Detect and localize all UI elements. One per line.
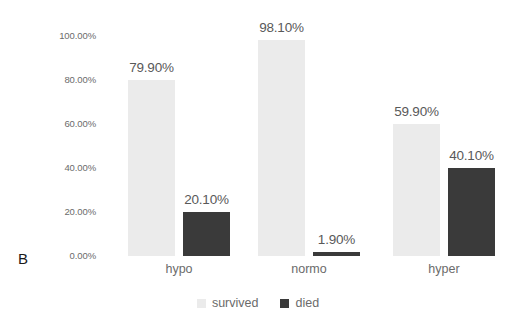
y-axis-tick-label: 60.00% xyxy=(64,118,96,129)
bar-hyper-died xyxy=(448,168,495,256)
legend-swatch-died-icon xyxy=(280,299,289,308)
data-label-hypo-survived: 79.90% xyxy=(114,60,189,75)
data-label-normo-survived: 98.10% xyxy=(244,20,319,35)
y-axis-tick-label: 0.00% xyxy=(70,250,96,261)
x-axis-category-label-normo: normo xyxy=(258,262,360,276)
bar-group-normo: 98.10%1.90%normo xyxy=(258,0,360,320)
legend-item-died[interactable]: died xyxy=(280,296,319,310)
bar-hypo-survived xyxy=(128,80,175,256)
legend-label: survived xyxy=(212,296,259,310)
y-axis-tick-label: 80.00% xyxy=(64,74,96,85)
legend-label: died xyxy=(295,296,319,310)
legend-swatch-survived-icon xyxy=(197,299,206,308)
data-label-hyper-died: 40.10% xyxy=(434,148,509,163)
bar-normo-died xyxy=(313,252,360,256)
plot-area: 79.90%20.10%hypo98.10%1.90%normo59.90%40… xyxy=(100,0,516,320)
x-axis-category-label-hypo: hypo xyxy=(128,262,230,276)
bar-chart-figure: B 0.00%20.00%40.00%60.00%80.00%100.00% 7… xyxy=(0,0,516,320)
bar-normo-survived xyxy=(258,40,305,256)
data-label-hyper-survived: 59.90% xyxy=(379,104,454,119)
bar-group-hypo: 79.90%20.10%hypo xyxy=(128,0,230,320)
y-axis-tick-label: 100.00% xyxy=(59,30,96,41)
y-axis-tick-label: 20.00% xyxy=(64,206,96,217)
bar-hypo-died xyxy=(183,212,230,256)
y-axis: 0.00%20.00%40.00%60.00%80.00%100.00% xyxy=(0,0,96,320)
x-axis-category-label-hyper: hyper xyxy=(393,262,495,276)
bar-group-hyper: 59.90%40.10%hyper xyxy=(393,0,495,320)
data-label-normo-died: 1.90% xyxy=(299,232,374,247)
y-axis-tick-label: 40.00% xyxy=(64,162,96,173)
legend-item-survived[interactable]: survived xyxy=(197,296,259,310)
chart-legend: surviveddied xyxy=(0,296,516,310)
data-label-hypo-died: 20.10% xyxy=(169,192,244,207)
bar-hyper-survived xyxy=(393,124,440,256)
